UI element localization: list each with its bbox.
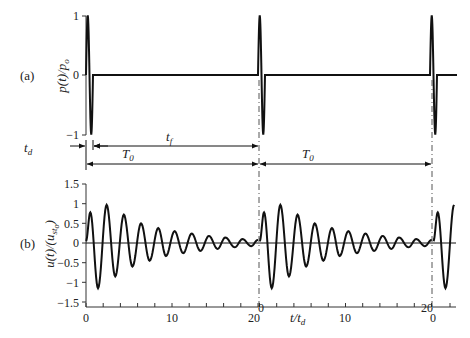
xtick-seg1-0: 0 [83, 311, 89, 325]
ytick-b-m1: −1 [66, 276, 79, 290]
panel-b: (b) u(t)/(usto) 1.5 1 0.5 0 −0.5 −1 −1.5… [20, 177, 456, 327]
ytick-b-0: 0 [73, 236, 79, 250]
panel-a-yaxis: 1 0 −1 [66, 9, 86, 142]
xtick-seg2-10: 10 [339, 311, 351, 325]
panel-a-label: (a) [20, 68, 34, 83]
td-label: td [24, 140, 33, 157]
ytick-b-0.5: 0.5 [64, 217, 79, 231]
panel-a-ylabel: p(t)/po [54, 59, 71, 94]
ytick-a-m1: −1 [66, 128, 79, 142]
ytick-b-m1.5: −1.5 [57, 296, 79, 310]
T0-label-1: T0 [122, 146, 134, 163]
ytick-b-1.5: 1.5 [64, 177, 79, 191]
panel-b-label: (b) [20, 236, 35, 251]
ytick-a-1: 1 [73, 9, 79, 23]
xtick-seg1-10: 10 [166, 311, 178, 325]
figure: (a) p(t)/po 1 0 −1 td tf T0 T0 [0, 0, 470, 338]
xtick-seg2-0: 0 [258, 301, 264, 315]
ytick-a-0: 0 [73, 68, 79, 82]
ytick-b-m0.5: −0.5 [57, 256, 79, 270]
period-guide-lines [86, 80, 432, 310]
ytick-b-1: 1 [73, 197, 79, 211]
panel-b-xaxis: 0 10 20 0 10 20 0 t/td [83, 301, 456, 327]
pulse-load-curve [86, 16, 457, 133]
tf-label: tf [166, 129, 174, 146]
T0-label-2: T0 [302, 146, 314, 163]
panel-a: (a) p(t)/po 1 0 −1 [20, 9, 457, 142]
xtick-seg3-0: 0 [430, 311, 436, 325]
panel-b-yaxis: 1.5 1 0.5 0 −0.5 −1 −1.5 [57, 177, 86, 310]
panel-b-xlabel: t/td [290, 310, 306, 327]
response-curve [86, 205, 454, 288]
dimension-annotations: td tf T0 T0 [24, 129, 431, 164]
